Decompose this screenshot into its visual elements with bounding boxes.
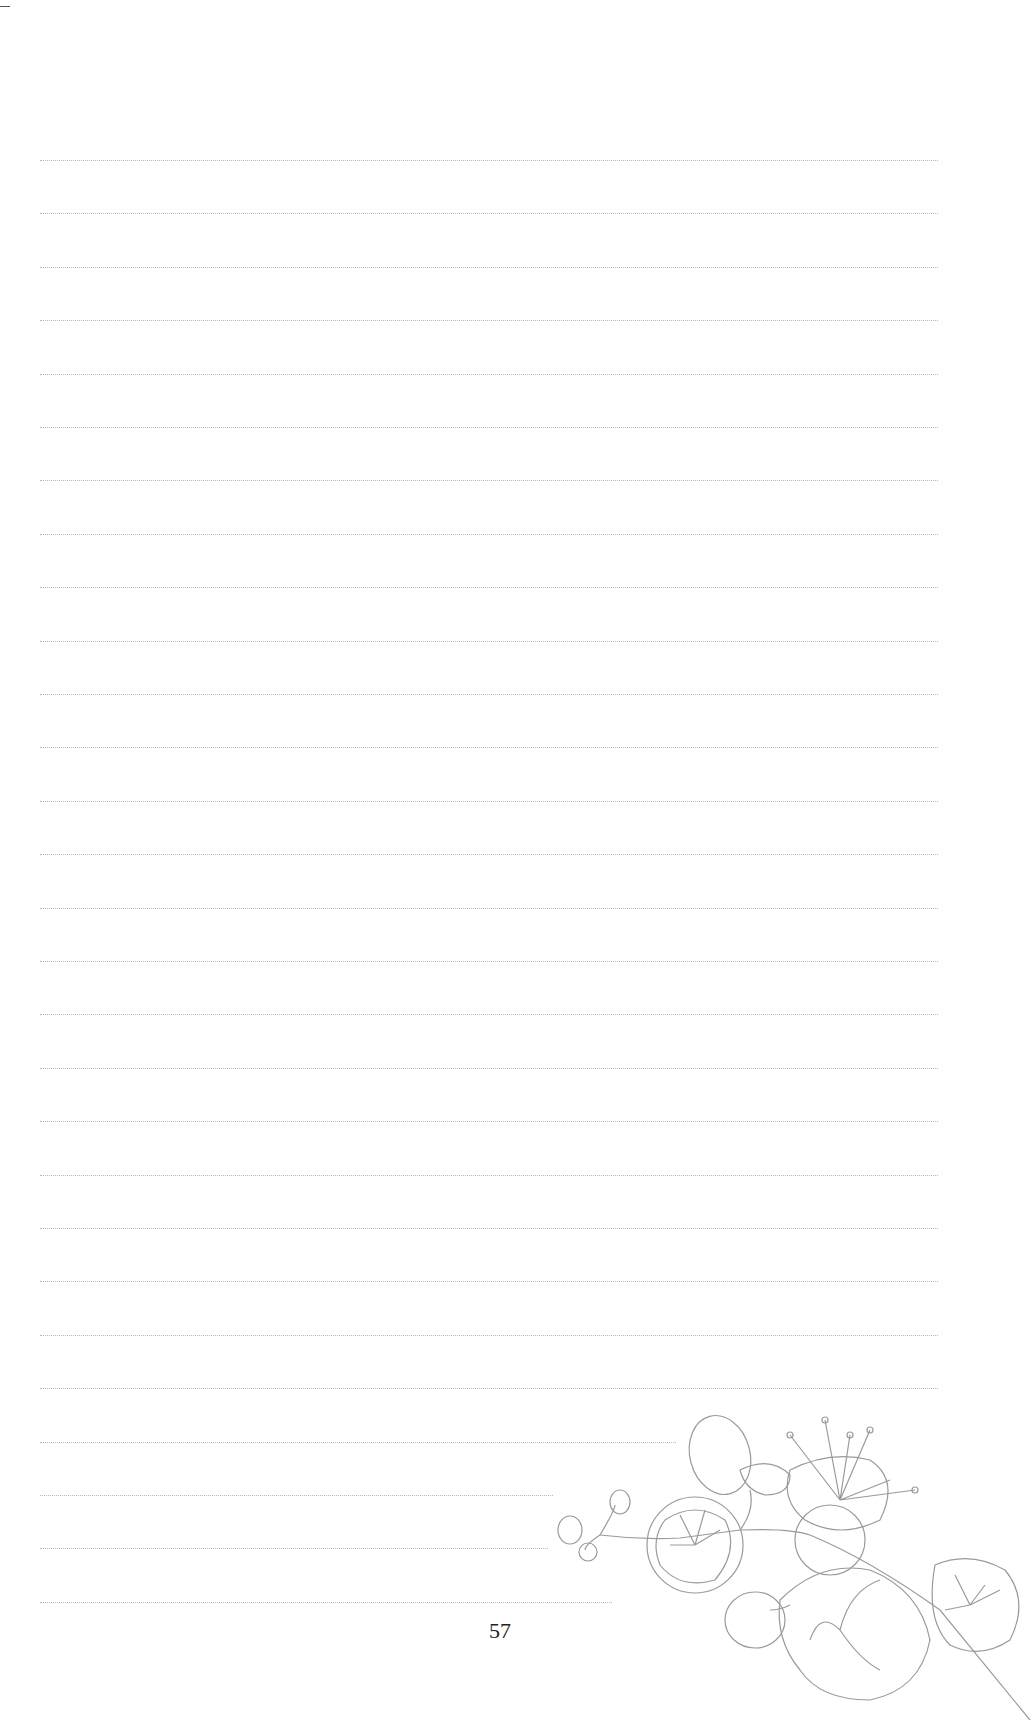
ruled-line (40, 641, 938, 642)
ruled-line (40, 1175, 938, 1176)
ruled-line (40, 213, 938, 214)
ruled-line (40, 480, 938, 481)
ruled-line (40, 267, 938, 268)
ruled-line (40, 694, 938, 695)
ruled-line (40, 1068, 938, 1069)
ruled-line (40, 587, 938, 588)
ruled-line (40, 1548, 548, 1549)
ruled-line (40, 1014, 938, 1015)
ruled-line (40, 961, 938, 962)
ruled-line (40, 1335, 938, 1336)
ruled-line (40, 1121, 938, 1122)
ruled-line (40, 427, 938, 428)
ruled-line (40, 534, 938, 535)
ruled-line (40, 854, 938, 855)
ruled-line (40, 908, 938, 909)
ruled-line (40, 1228, 938, 1229)
ruled-line (40, 160, 938, 161)
ruled-line (40, 320, 938, 321)
ruled-line (40, 1495, 553, 1496)
ruled-line (40, 747, 938, 748)
ruled-line (40, 1281, 938, 1282)
ruled-line (40, 1602, 612, 1603)
corner-mark (0, 6, 10, 7)
page-number: 57 (0, 1618, 1000, 1644)
ruled-line (40, 801, 938, 802)
cherry-blossom-illustration-icon (540, 1380, 1035, 1725)
ruled-line (40, 374, 938, 375)
